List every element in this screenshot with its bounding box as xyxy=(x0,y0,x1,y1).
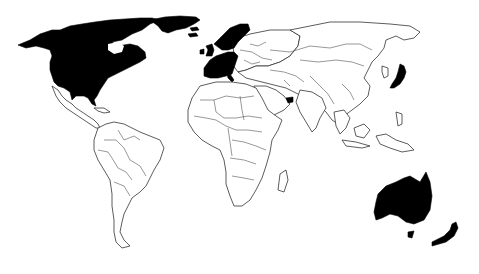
north-america-highlighted xyxy=(18,16,200,106)
region-tasmania xyxy=(408,231,414,238)
region-south-america xyxy=(94,122,164,248)
oceania xyxy=(374,172,458,246)
region-uk xyxy=(206,44,214,56)
world-map xyxy=(0,0,479,274)
latin-america xyxy=(52,86,164,248)
region-ireland xyxy=(200,49,204,54)
region-australia xyxy=(374,172,432,224)
region-japan xyxy=(390,64,406,88)
region-madagascar xyxy=(278,170,288,192)
region-usa-canada xyxy=(18,18,160,106)
region-iceland xyxy=(188,33,198,37)
region-new-zealand xyxy=(432,222,458,246)
